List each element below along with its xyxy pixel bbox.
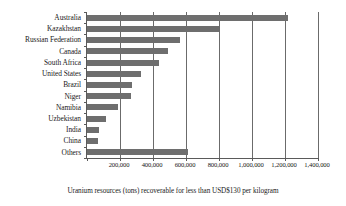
- bar: [87, 26, 219, 32]
- plot-area: [86, 12, 318, 159]
- x-axis-tick-label: 600,000: [175, 162, 196, 169]
- bar-row: [87, 124, 318, 135]
- bar-row: [87, 68, 318, 79]
- bar: [87, 37, 180, 43]
- bar: [87, 93, 131, 99]
- y-axis-label: Russian Federation: [0, 34, 84, 45]
- bar: [87, 149, 188, 155]
- x-axis-tick-label: 200,000: [109, 162, 130, 169]
- y-axis-label: Namibia: [0, 102, 84, 113]
- x-axis-tick-label: 1,400,000: [304, 162, 329, 169]
- x-axis-tick-label: 400,000: [142, 162, 163, 169]
- bar: [87, 48, 168, 54]
- x-axis-tick-labels: 200,000400,000600,000800,0001,000,0001,2…: [0, 162, 346, 173]
- bar-row: [87, 12, 318, 23]
- y-axis-label: Kazakhstan: [0, 23, 84, 34]
- x-axis-title: Uranium resources (tons) recoverable for…: [0, 188, 346, 195]
- bar-row: [87, 79, 318, 90]
- bar-row: [87, 57, 318, 68]
- bar: [87, 71, 141, 77]
- y-axis-label: Others: [0, 147, 84, 158]
- bars-layer: [87, 12, 318, 158]
- uranium-resources-bar-chart: AustraliaKazakhstanRussian FederationCan…: [0, 0, 346, 206]
- y-axis-label: India: [0, 124, 84, 135]
- y-axis-label: South Africa: [0, 57, 84, 68]
- bar: [87, 127, 99, 133]
- y-axis-label: Canada: [0, 46, 84, 57]
- bar-row: [87, 91, 318, 102]
- y-axis-label: Brazil: [0, 79, 84, 90]
- y-axis-label: China: [0, 136, 84, 147]
- y-axis-category-labels: AustraliaKazakhstanRussian FederationCan…: [0, 12, 84, 158]
- gridline: [318, 12, 319, 158]
- y-axis-label: United States: [0, 68, 84, 79]
- bar-row: [87, 147, 318, 158]
- bar: [87, 60, 159, 66]
- bar: [87, 116, 106, 122]
- bar: [87, 82, 132, 88]
- bar-row: [87, 46, 318, 57]
- bar-row: [87, 136, 318, 147]
- bar-row: [87, 23, 318, 34]
- x-axis-tick-mark: [87, 158, 88, 161]
- bar-row: [87, 113, 318, 124]
- bar-row: [87, 34, 318, 45]
- y-axis-label: Uzbekistan: [0, 113, 84, 124]
- x-axis-tick-label: 800,000: [208, 162, 229, 169]
- x-axis-tick-label: 1,000,000: [238, 162, 263, 169]
- y-axis-label: Niger: [0, 91, 84, 102]
- bar: [87, 104, 118, 110]
- bar: [87, 138, 98, 144]
- bar-row: [87, 102, 318, 113]
- bar: [87, 15, 288, 21]
- x-axis-tick-label: 1,200,000: [271, 162, 296, 169]
- y-axis-label: Australia: [0, 12, 84, 23]
